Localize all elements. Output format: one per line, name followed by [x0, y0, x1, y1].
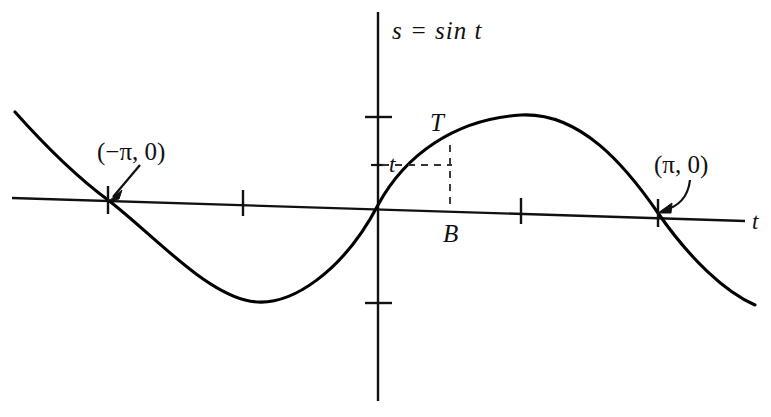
left-zero-arrow: [113, 165, 140, 197]
horizontal-axis-label: t: [752, 210, 758, 233]
sine-curve-figure: s = sin t t (−π, 0) (π, 0) T B t: [0, 0, 771, 417]
point-b-label: B: [443, 221, 458, 246]
vertical-axis-label: s = sin t: [392, 18, 482, 43]
point-t-label: T: [430, 110, 444, 135]
height-value-label: t: [389, 153, 395, 176]
figure-canvas: [0, 0, 771, 417]
right-zero-point-label: (π, 0): [654, 152, 708, 177]
right-zero-arrowhead: [658, 203, 672, 213]
left-zero-arrowhead: [109, 190, 122, 201]
left-zero-point-label: (−π, 0): [97, 139, 165, 164]
